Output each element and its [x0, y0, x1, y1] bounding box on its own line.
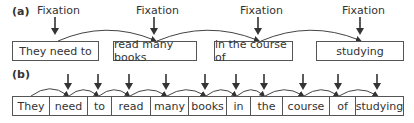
word-cell: course [282, 96, 330, 116]
word-cell: in [226, 96, 251, 116]
word-cell: of [329, 96, 356, 116]
word-cell: They [12, 96, 50, 116]
word-cell: studying [355, 96, 404, 116]
word-cell: the [250, 96, 283, 116]
chunk-box: They need to [12, 41, 99, 61]
fixation-label: Fixation [37, 4, 80, 17]
chunk-box: read many books [113, 41, 197, 61]
fixation-arrows-b [64, 74, 381, 90]
word-cell: books [188, 96, 227, 116]
chunk-box: in the course of [214, 41, 293, 61]
fixation-label: Fixation [240, 4, 283, 17]
chunk-box: studying [316, 41, 404, 61]
word-cell: many [150, 96, 189, 116]
saccade-arcs-a [58, 30, 359, 41]
word-cell: need [49, 96, 88, 116]
word-cell: read [111, 96, 151, 116]
word-cell: to [87, 96, 112, 116]
fixation-label: Fixation [342, 4, 385, 17]
panel-a-label: (a) [12, 5, 29, 18]
fixation-label: Fixation [136, 4, 179, 17]
panel-b-label: (b) [12, 68, 30, 81]
saccade-arcs-b [31, 89, 376, 96]
fixation-arrows-a [51, 17, 364, 35]
